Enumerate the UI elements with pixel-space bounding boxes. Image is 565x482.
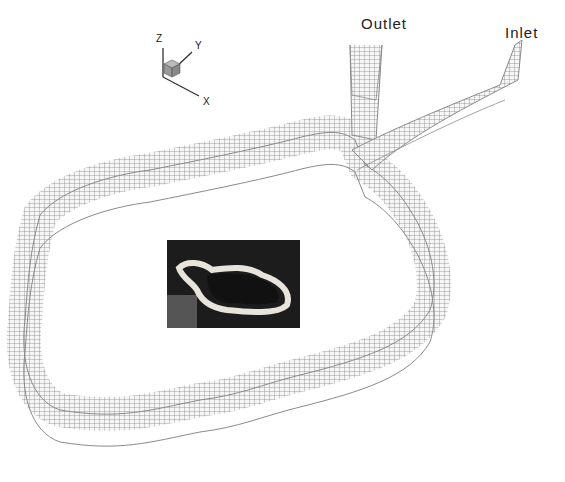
inlet-label: Inlet — [505, 24, 538, 41]
axis-triad — [163, 48, 199, 96]
outlet-label: Outlet — [361, 15, 407, 32]
photo-channel-model — [167, 240, 300, 328]
axis-y-label: Y — [195, 40, 202, 51]
axis-z-label: Z — [156, 33, 162, 44]
axis-x-label: X — [203, 96, 210, 107]
inset-photo — [167, 240, 300, 328]
axis-cube-icon — [164, 60, 180, 77]
outlet-channel — [350, 45, 382, 140]
